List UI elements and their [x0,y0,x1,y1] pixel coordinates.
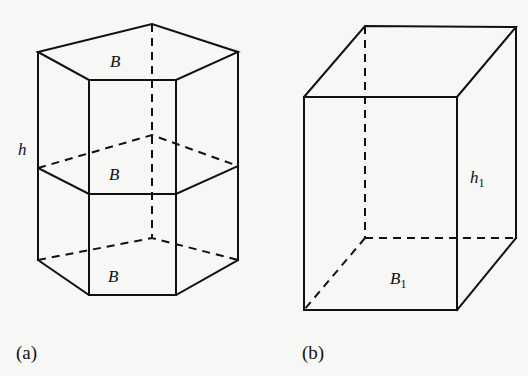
height-label-main: h [470,168,479,187]
base-label-top: B [110,52,121,71]
bottom-base-back-edges [38,238,238,260]
middle-base-back-edges [38,135,238,168]
bottom-right-edge [457,238,516,310]
pentagonal-prism: B B B h (a) [16,24,238,364]
base-label-bottom: B [108,267,119,286]
base-label-main: B [390,269,401,288]
diagram-canvas: B B B h (a) h1 B1 (b) [0,0,528,376]
base-label-middle: B [109,165,120,184]
top-face-back-edges [304,26,516,97]
caption-a: (a) [16,342,37,364]
base-label-b1: B1 [390,269,406,291]
height-label: h [18,140,27,159]
height-label-subscript: 1 [479,176,485,190]
base-label-subscript: 1 [400,277,406,291]
middle-base-front-edges [38,166,238,194]
height-label-h1: h1 [470,168,485,190]
hidden-left-bottom-edge [304,238,365,310]
top-base-pentagon [38,24,238,80]
rectangular-box: h1 B1 (b) [302,26,516,364]
caption-b: (b) [302,342,324,364]
bottom-base-front-edges [38,260,238,295]
front-face [304,97,457,310]
